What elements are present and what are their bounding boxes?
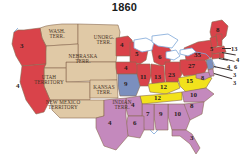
ev-new-york: 35 [194,52,201,59]
ev-maine: 8 [216,27,220,34]
ev-florida: 3 [190,135,194,142]
ev-new-jersey: 3 [233,71,236,78]
region-nebraska-territory [66,62,117,82]
ev-north-carolina: 10 [190,92,197,99]
ev-mississippi: 7 [146,111,150,118]
ev-tennessee: 12 [154,95,161,102]
region-florida [172,130,200,154]
ev-wisconsin: 5 [135,51,139,58]
ev-delaware: 3 [233,79,236,86]
ev-iowa: 4 [124,65,128,72]
ev-arkansas: 4 [131,102,135,109]
ev-maryland: 8 [201,74,204,81]
ev-oregon: 3 [20,43,24,50]
ev-texas: 4 [108,120,112,127]
electoral-map-1860: 1860 [0,0,249,163]
ev-rhode-island: 6 [234,63,237,70]
ev-illinois: 11 [140,74,147,81]
region-new-jersey [206,59,214,70]
map-canvas: WASH.TERR. UNORG.TERR. NEBRASKATERR. UTA… [0,16,249,163]
ev-louisiana: 6 [133,120,137,127]
ev-indiana: 13 [154,74,161,81]
label-unorganized-territory: UNORG.TERR. [86,35,122,46]
ev-georgia: 10 [174,111,181,118]
label-washington-territory: WASH.TERR. [40,29,74,40]
ev-ohio: 23 [168,72,175,79]
ev-michigan: 6 [158,54,162,61]
label-utah-territory: UTAHTERRITORY [26,75,72,86]
label-kansas-territory: KANSASTERR. [88,85,120,96]
leader-line-new-hampshire [222,48,231,49]
ev-kentucky: 12 [160,84,167,91]
ev-virginia: 15 [186,78,193,85]
ev-alabama: 9 [159,111,163,118]
ev-missouri: 9 [124,81,128,88]
ev-pennsylvania: 27 [188,63,195,70]
label-nebraska-territory: NEBRASKATERR. [62,54,104,65]
ev-new-hampshire: 13 [231,45,237,52]
ev-massachusetts: 4 [236,56,239,63]
page-title: 1860 [0,1,249,13]
ev-vermont: 5 [210,45,213,52]
label-new-mexico-territory: NEW MEXICOTERRITORY [36,100,90,111]
ev-south-carolina: 8 [190,103,194,110]
ev-california: 4 [16,83,20,90]
map-svg [0,16,249,163]
ev-minnesota: 4 [120,42,124,49]
region-tennessee [140,92,182,104]
region-missouri [118,74,140,96]
